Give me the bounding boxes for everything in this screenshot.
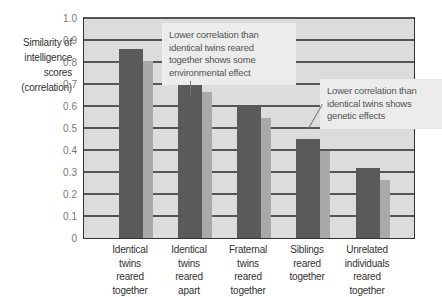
bar [178, 80, 202, 238]
bar-shadow [380, 180, 390, 238]
annotation-leader-line [190, 81, 191, 95]
y-tick-label: 0.2 [53, 189, 77, 200]
bar-shadow [320, 151, 330, 238]
annotation-callout: Lower correlation thanidentical twins re… [162, 23, 296, 85]
y-tick-label: 0.3 [53, 167, 77, 178]
y-tick-label: 1.0 [53, 13, 77, 24]
plot-area: Lower correlation thanidentical twins re… [83, 17, 415, 239]
y-tick-label: 0 [53, 233, 77, 244]
bar [356, 168, 380, 238]
bar [296, 139, 320, 238]
bar [119, 49, 143, 238]
y-tick-label: 0.7 [53, 79, 77, 90]
gridline [84, 17, 414, 19]
y-tick-label: 0.6 [53, 101, 77, 112]
y-tick-label: 0.5 [53, 123, 77, 134]
y-tick-label: 0.8 [53, 57, 77, 68]
y-tick-label: 0.9 [53, 35, 77, 46]
y-tick-label: 0.4 [53, 145, 77, 156]
bar-shadow [143, 61, 153, 238]
x-tick-label: Unrelatedindividualsrearedtogether [332, 243, 402, 297]
bar [237, 106, 261, 238]
bar-shadow [261, 118, 271, 238]
y-tick-label: 0.1 [53, 211, 77, 222]
bar-shadow [202, 92, 212, 238]
annotation-callout: Lower correlation thanidentical twins sh… [320, 79, 442, 129]
